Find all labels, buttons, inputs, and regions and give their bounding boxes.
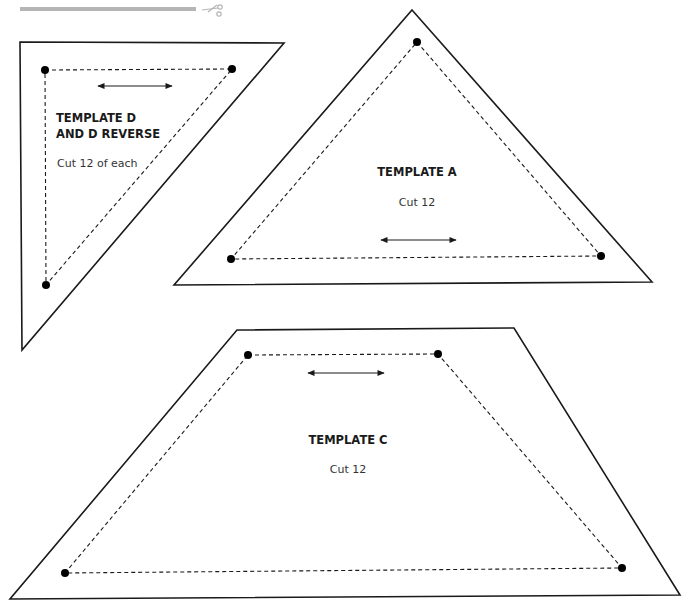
seam-dot <box>227 255 235 263</box>
template-d-instruction: Cut 12 of each <box>57 157 138 170</box>
seam-dot <box>434 350 442 358</box>
seam-dot <box>244 351 252 359</box>
template-d: TEMPLATE D AND D REVERSE Cut 12 of each <box>20 42 284 350</box>
seam-dot <box>41 66 49 74</box>
seam-dot <box>618 564 626 572</box>
template-sheet: TEMPLATE D AND D REVERSE Cut 12 of each … <box>0 0 685 611</box>
scissors-icon <box>202 5 222 16</box>
seam-dot <box>61 569 69 577</box>
seam-dot <box>228 65 236 73</box>
template-d-title-line2: AND D REVERSE <box>56 127 160 141</box>
template-a-title: TEMPLATE A <box>377 165 457 179</box>
template-a-instruction: Cut 12 <box>399 196 435 209</box>
cut-guide <box>20 5 222 16</box>
template-c-instruction: Cut 12 <box>330 463 366 476</box>
template-d-title: TEMPLATE D <box>56 111 136 125</box>
template-d-cut-outline <box>20 42 284 350</box>
seam-dot <box>413 38 421 46</box>
template-c-title: TEMPLATE C <box>308 433 387 447</box>
seam-dot <box>597 252 605 260</box>
template-c: TEMPLATE C Cut 12 <box>10 328 680 599</box>
seam-dot <box>42 281 50 289</box>
